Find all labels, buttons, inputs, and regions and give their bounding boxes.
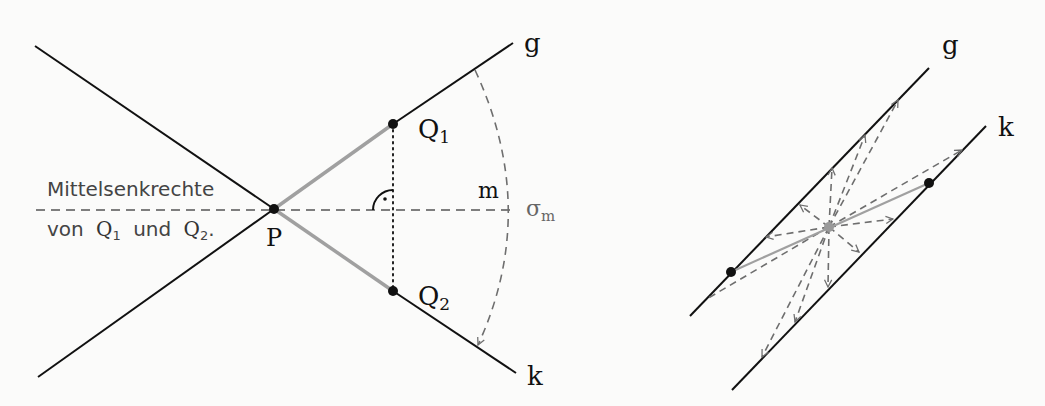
left-figure: Mittelsenkrechte von Q1 und Q2. P Q1 Q2 … xyxy=(35,28,555,391)
center-point xyxy=(824,222,834,232)
ray-to-g-3 xyxy=(829,168,832,227)
reflection-arc xyxy=(475,70,508,345)
point-on-g xyxy=(726,267,736,277)
ray-to-k-1 xyxy=(829,150,962,227)
label-q1: Q1 xyxy=(418,114,450,147)
label-q2: Q2 xyxy=(418,281,450,314)
line-k-right xyxy=(732,126,986,390)
segment-p-q1 xyxy=(274,124,393,209)
label-p: P xyxy=(266,224,282,252)
right-figure: g k xyxy=(690,30,1014,390)
label-k-left: k xyxy=(527,361,543,391)
point-q1 xyxy=(388,119,398,129)
segment-p-q2 xyxy=(274,209,393,291)
ray-to-g-4 xyxy=(800,205,829,227)
label-m: m xyxy=(478,178,499,203)
label-k-right: k xyxy=(998,112,1014,142)
line-g xyxy=(393,43,513,124)
label-sigma-m: σm xyxy=(526,196,555,225)
diagram-canvas: Mittelsenkrechte von Q1 und Q2. P Q1 Q2 … xyxy=(0,0,1045,406)
right-angle-mark xyxy=(373,190,393,210)
ray-to-k-4 xyxy=(828,227,829,287)
line-g-right xyxy=(690,68,929,316)
point-q2 xyxy=(388,286,398,296)
perp-bisector-label-line2: von Q1 und Q2. xyxy=(47,217,215,245)
point-p xyxy=(269,204,279,214)
ray-to-k-3 xyxy=(829,227,859,252)
label-g-right: g xyxy=(942,30,959,60)
right-angle-dot xyxy=(383,197,387,201)
point-on-k xyxy=(924,178,934,188)
label-g-left: g xyxy=(524,28,541,58)
perp-bisector-label-line1: Mittelsenkrechte xyxy=(47,177,214,201)
line-k xyxy=(393,291,516,373)
